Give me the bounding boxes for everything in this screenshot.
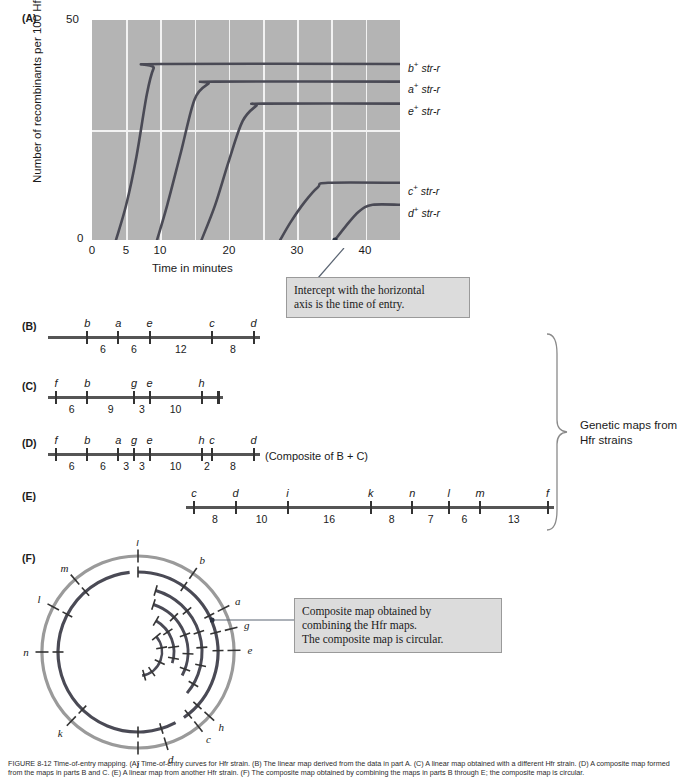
map-locus-b: b xyxy=(80,434,94,446)
chart-plot-area xyxy=(92,20,400,240)
map-locus-d: d xyxy=(247,317,261,329)
circular-map-label-h: h xyxy=(218,721,224,733)
chart-y-tick-0: 0 xyxy=(77,232,83,244)
brace-label-line2: Hfr strains xyxy=(580,433,677,448)
map-distance: 10 xyxy=(165,460,187,472)
map-tick-b xyxy=(86,331,88,344)
circular-map-label-c: c xyxy=(206,733,211,745)
map-distance: 3 xyxy=(131,403,153,415)
circular-map-arc-2 xyxy=(156,590,202,693)
map-tick-d xyxy=(253,331,255,344)
brace-label-line1: Genetic maps from xyxy=(580,418,677,433)
chart-y-axis-label: Number of recombinants per 100 Hfr cells xyxy=(31,0,43,183)
map-tick-b xyxy=(86,448,88,461)
map-distance: 12 xyxy=(170,343,192,355)
map-distance: 6 xyxy=(123,343,145,355)
map-locus-e: e xyxy=(143,434,157,446)
figure-caption: FIGURE 8-12 Time-of-entry mapping. (A) T… xyxy=(8,759,673,777)
map-distance: 6 xyxy=(453,513,475,525)
map-locus-a: a xyxy=(111,434,125,446)
circular-map-tick xyxy=(168,646,179,648)
map-locus-a: a xyxy=(111,317,125,329)
circular-map-label-n: n xyxy=(23,646,29,658)
map-locus-f: f xyxy=(49,434,63,446)
panel-letter-d: (D) xyxy=(22,437,37,449)
circular-map-panel: fbagehcdiknlm xyxy=(20,540,300,770)
chart-curve-astrr xyxy=(157,81,400,240)
map-distance: 9 xyxy=(100,403,122,415)
map-locus-l: l xyxy=(442,487,456,499)
circular-map-label-b: b xyxy=(199,554,205,566)
chart-x-tick-0: 0 xyxy=(82,244,102,256)
map-distance: 6 xyxy=(92,343,114,355)
map-locus-c: c xyxy=(205,434,219,446)
circular-map-svg: fbagehcdiknlm xyxy=(20,540,300,770)
map-distance: 10 xyxy=(165,403,187,415)
map-distance: 6 xyxy=(61,460,83,472)
map-locus-m: m xyxy=(473,487,487,499)
map-tick-n xyxy=(411,501,413,514)
map-tick-a xyxy=(117,331,119,344)
map-locus-e: e xyxy=(143,317,157,329)
map-distance: 10 xyxy=(251,513,273,525)
map-locus-h: h xyxy=(195,377,209,389)
chart-curve-dstrr xyxy=(335,204,400,240)
map-axis xyxy=(48,396,223,399)
map-tick-k xyxy=(370,501,372,514)
intercept-callout: Intercept with the horizontal axis is th… xyxy=(286,277,470,318)
map-locus-f: f xyxy=(49,377,63,389)
panel-letter-b: (B) xyxy=(22,320,37,332)
curve-label-e: e+ str-r xyxy=(408,103,440,117)
map-distance: 7 xyxy=(420,513,442,525)
map-distance: 6 xyxy=(61,403,83,415)
circular-map-arc-1b xyxy=(58,572,176,732)
circular-map-tick xyxy=(195,664,206,666)
circular-map-tick xyxy=(196,647,207,648)
curve-label-c: c+ str-r xyxy=(408,183,439,197)
map-tick-f xyxy=(55,448,57,461)
map-distance: 2 xyxy=(196,460,218,472)
composite-callout-leader xyxy=(210,612,300,626)
map-locus-b: b xyxy=(80,377,94,389)
composite-callout: Composite map obtained by combining the … xyxy=(294,598,502,653)
chart-curve-estrr xyxy=(202,103,400,240)
composite-callout-line3: The composite map is circular. xyxy=(302,632,494,646)
map-tick-c xyxy=(211,331,213,344)
hfr-maps-brace xyxy=(545,332,571,532)
map-locus-g: g xyxy=(127,377,141,389)
map-locus-n: n xyxy=(405,487,419,499)
time-of-entry-chart-panel: (A) Number of recombinants per 100 Hfr c… xyxy=(0,0,500,300)
map-axis xyxy=(48,336,260,339)
map-distance: 8 xyxy=(222,343,244,355)
circular-map-tick xyxy=(156,647,167,649)
circular-map-label-m: m xyxy=(61,562,69,574)
map-locus-c: c xyxy=(205,317,219,329)
map-locus-g: g xyxy=(127,434,141,446)
map-locus-i: i xyxy=(281,487,295,499)
circular-map-arc-1 xyxy=(138,572,218,718)
map-axis xyxy=(48,453,260,456)
intercept-callout-leader xyxy=(300,248,360,280)
map-tick-d xyxy=(253,448,255,461)
circular-map-label-l: l xyxy=(38,593,41,605)
curve-label-a: a+ str-r xyxy=(408,81,440,95)
map-distance: 3 xyxy=(131,460,153,472)
intercept-callout-line2: axis is the time of entry. xyxy=(294,297,462,311)
circular-map-label-k: k xyxy=(58,727,64,739)
map-tick-f xyxy=(55,391,57,404)
map-locus-k: k xyxy=(364,487,378,499)
composite-callout-line2: combining the Hfr maps. xyxy=(302,618,494,632)
map-distance: 8 xyxy=(204,513,226,525)
map-d-note: (Composite of B + C) xyxy=(265,450,368,462)
circular-map-label-e: e xyxy=(248,644,253,656)
chart-y-tick-50: 50 xyxy=(66,13,79,25)
map-tick-d xyxy=(235,501,237,514)
chart-x-tick-20: 20 xyxy=(219,244,239,256)
map-tick-i xyxy=(287,501,289,514)
map-locus-d: d xyxy=(229,487,243,499)
curve-label-d: d+ str-r xyxy=(408,205,440,219)
map-distance: 16 xyxy=(318,513,340,525)
map-locus-c: c xyxy=(187,487,201,499)
map-distance: 8 xyxy=(381,513,403,525)
map-distance: 6 xyxy=(92,460,114,472)
